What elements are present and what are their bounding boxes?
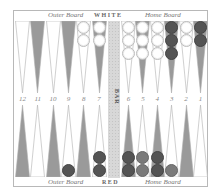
label-white-player: WHITE [94,12,123,18]
point-triangle [46,21,61,93]
top-point-4[interactable] [61,21,76,93]
white-checker[interactable] [151,34,164,47]
point-triangle [30,105,45,177]
white-checker[interactable] [122,21,135,34]
bar-label: BAR [108,89,120,105]
bottom-point-1[interactable] [15,105,30,177]
label-red-player: RED [102,179,119,185]
dark-checker[interactable] [122,164,135,177]
top-point-1[interactable] [15,21,30,93]
bottom-point-8[interactable] [135,105,150,177]
point-number-6: 6 [121,95,136,103]
point-triangle [76,105,91,177]
top-point-6[interactable] [92,21,107,93]
bottom-point-7[interactable] [121,105,136,177]
point-number-4: 4 [150,95,165,103]
point-number-7: 7 [92,95,107,103]
point-number-8: 8 [76,95,91,103]
top-point-3[interactable] [46,21,61,93]
top-point-9[interactable] [150,21,165,93]
white-checker[interactable] [122,34,135,47]
bottom-point-9[interactable] [150,105,165,177]
white-checker[interactable] [122,47,135,60]
bottom-point-10[interactable] [164,105,179,177]
top-point-7[interactable] [121,21,136,93]
dark-checker[interactable] [122,151,135,164]
label-outer-board-bottom: Outer Board [48,178,83,186]
dark-checker[interactable] [93,151,106,164]
point-number-9: 9 [61,95,76,103]
point-number-5: 5 [135,95,150,103]
white-checker[interactable] [93,34,106,47]
point-triangle [46,105,61,177]
label-home-board-bottom: Home Board [145,178,181,186]
white-checker[interactable] [151,21,164,34]
point-triangle [15,105,30,177]
point-number-12: 12 [15,95,30,103]
top-point-12[interactable] [193,21,208,93]
bottom-point-3[interactable] [46,105,61,177]
dark-checker[interactable] [62,164,75,177]
white-checker[interactable] [180,34,193,47]
dark-checker[interactable] [194,34,207,47]
point-number-1: 1 [193,95,208,103]
top-point-2[interactable] [30,21,45,93]
bottom-point-6[interactable] [92,105,107,177]
point-triangle [30,21,45,93]
point-triangle [61,21,76,93]
point-triangle [179,105,194,177]
bottom-point-12[interactable] [193,105,208,177]
bottom-point-11[interactable] [179,105,194,177]
point-number-3: 3 [164,95,179,103]
bottom-point-4[interactable] [61,105,76,177]
dark-checker[interactable] [194,21,207,34]
top-point-8[interactable] [135,21,150,93]
top-point-5[interactable] [76,21,91,93]
top-point-11[interactable] [179,21,194,93]
label-home-board-top: Home Board [145,11,181,19]
white-checker[interactable] [93,21,106,34]
top-point-10[interactable] [164,21,179,93]
backgammon-board: Outer Board WHITE Home Board BAR Outer B… [13,10,208,187]
dark-checker[interactable] [151,164,164,177]
label-outer-board-top: Outer Board [48,11,83,19]
white-checker[interactable] [151,47,164,60]
dark-checker[interactable] [151,151,164,164]
bottom-point-5[interactable] [76,105,91,177]
point-triangle [15,21,30,93]
white-checker[interactable] [180,21,193,34]
dark-checker[interactable] [93,164,106,177]
point-number-10: 10 [46,95,61,103]
point-number-2: 2 [179,95,194,103]
point-triangle [193,105,208,177]
bottom-point-2[interactable] [30,105,45,177]
point-number-11: 11 [30,95,45,103]
